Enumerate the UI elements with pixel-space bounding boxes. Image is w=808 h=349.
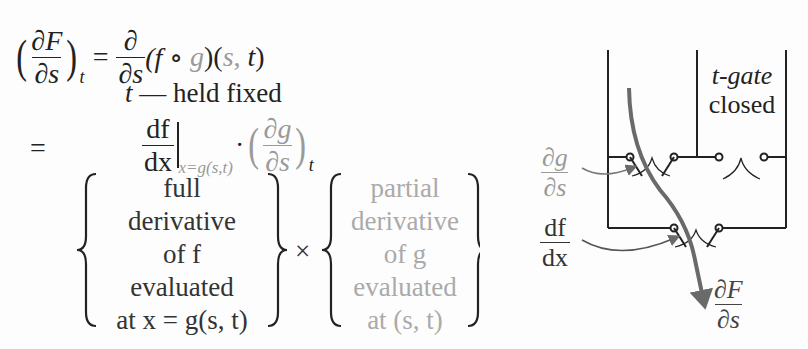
close-paren: ) [67, 34, 78, 80]
arg-s: s [223, 41, 234, 73]
arg-t: t [248, 41, 256, 73]
open-paren: ( [16, 34, 27, 80]
s-gate-upper-open [627, 154, 678, 177]
equals-sign: = [93, 41, 109, 73]
lhs-subscript: t [80, 67, 85, 88]
arg-close: ) [255, 41, 264, 73]
flow-arrow [629, 88, 703, 298]
equals-sign-2: = [30, 132, 46, 164]
composition-mid: )( [204, 41, 223, 73]
t-gate-label-line1: t-gate [712, 61, 773, 90]
f-gate-lower-open [671, 225, 723, 248]
partial-derivative-block: partial derivative of g evaluated at (s,… [340, 172, 470, 337]
lhs-fraction: ∂F ∂s [29, 26, 64, 88]
dF-ds-label: ∂F ∂s [712, 276, 745, 334]
t-gate-closed [716, 154, 768, 180]
df-dx-fraction: df dx [142, 114, 174, 176]
dot-operator: · [235, 129, 244, 161]
arg-comma: , [234, 41, 248, 73]
composition-open: (f ∘ [145, 41, 190, 74]
times-sign: × [295, 236, 310, 267]
t-gate-label-line2: closed [709, 90, 775, 119]
composition-g: g [190, 41, 204, 73]
df-pointer-arrow [582, 238, 675, 251]
full-derivative-block: full derivative of f evaluated at x = g(… [96, 172, 268, 337]
close-paren-2: ) [296, 122, 307, 168]
held-fixed-annotation: t — held fixed [125, 78, 282, 109]
dg-ds-label: ∂g ∂s [540, 144, 570, 202]
open-paren-2: ( [249, 122, 260, 168]
dg-ds-fraction: ∂g ∂s [262, 114, 294, 176]
df-dx-label: df dx [540, 214, 570, 272]
